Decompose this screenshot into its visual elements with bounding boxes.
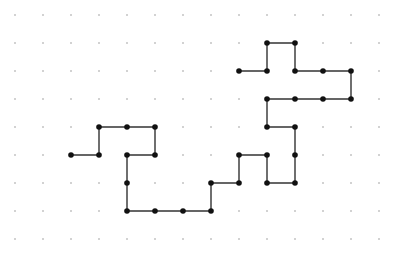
grid-dot [238, 98, 240, 100]
grid-dot [378, 238, 380, 240]
grid-dot [294, 210, 296, 212]
path-node [264, 40, 270, 46]
grid-dot [14, 182, 16, 184]
grid-dot [350, 14, 352, 16]
grid-dot [182, 238, 184, 240]
grid-dot [70, 210, 72, 212]
grid-dot [378, 210, 380, 212]
path-node [152, 208, 158, 214]
grid-dot [42, 42, 44, 44]
grid-dot [322, 238, 324, 240]
grid-dot [154, 14, 156, 16]
grid-dot [14, 14, 16, 16]
grid-dot [322, 210, 324, 212]
grid-dot [378, 14, 380, 16]
grid-dot [70, 14, 72, 16]
grid-dot [322, 154, 324, 156]
grid-dot [210, 70, 212, 72]
path-node [124, 124, 130, 130]
grid-dot [14, 210, 16, 212]
grid-dot [70, 238, 72, 240]
grid-dot [378, 154, 380, 156]
grid-dot [210, 98, 212, 100]
grid-dot [14, 98, 16, 100]
grid-dot [98, 14, 100, 16]
grid-dot [210, 126, 212, 128]
grid-dot [98, 70, 100, 72]
grid-dot [98, 42, 100, 44]
grid-dot [378, 98, 380, 100]
path-node [292, 96, 298, 102]
grid-dot [70, 70, 72, 72]
path-node [68, 152, 74, 158]
path-node [264, 68, 270, 74]
grid-dot [294, 14, 296, 16]
grid-dot [98, 182, 100, 184]
grid-dot [182, 14, 184, 16]
grid-dot [42, 238, 44, 240]
grid-dot [238, 238, 240, 240]
grid-dot [210, 154, 212, 156]
path-node [292, 40, 298, 46]
grid-dot [378, 42, 380, 44]
grid-dot [14, 126, 16, 128]
grid-dot [14, 238, 16, 240]
grid-dot [322, 126, 324, 128]
grid-dot [42, 210, 44, 212]
grid-dot [322, 14, 324, 16]
grid-dot [378, 70, 380, 72]
grid-dot [350, 210, 352, 212]
grid-dot [350, 182, 352, 184]
grid-dots [14, 14, 380, 240]
grid-dot [126, 238, 128, 240]
grid-dot [322, 182, 324, 184]
grid-dot [182, 154, 184, 156]
grid-dot [126, 14, 128, 16]
grid-dot [98, 210, 100, 212]
grid-dot [182, 42, 184, 44]
path-node [320, 68, 326, 74]
path-node [236, 180, 242, 186]
grid-dot [126, 42, 128, 44]
path-node [348, 68, 354, 74]
grid-dot [14, 42, 16, 44]
path-node [124, 152, 130, 158]
grid-dot [294, 238, 296, 240]
grid-dot [126, 70, 128, 72]
grid-dot [350, 126, 352, 128]
path-node [264, 96, 270, 102]
path-node [124, 208, 130, 214]
path-node [236, 152, 242, 158]
grid-dot [210, 238, 212, 240]
grid-dot [42, 126, 44, 128]
grid-dot [42, 98, 44, 100]
path-node [292, 68, 298, 74]
path-node [124, 180, 130, 186]
grid-dot [350, 42, 352, 44]
grid-dot [154, 98, 156, 100]
grid-dot [70, 182, 72, 184]
grid-dot [210, 42, 212, 44]
path-node [96, 152, 102, 158]
grid-dot [42, 70, 44, 72]
path-node [208, 208, 214, 214]
path-node [264, 180, 270, 186]
grid-dot [42, 154, 44, 156]
grid-dot [42, 182, 44, 184]
path-node [292, 180, 298, 186]
path-node [292, 124, 298, 130]
grid-dot [154, 42, 156, 44]
grid-dot [70, 42, 72, 44]
grid-dot [350, 154, 352, 156]
grid-dot [378, 182, 380, 184]
path-node [264, 124, 270, 130]
grid-dot [182, 182, 184, 184]
lattice-path-diagram [0, 0, 394, 256]
grid-dot [266, 210, 268, 212]
path-node [208, 180, 214, 186]
grid-dot [238, 126, 240, 128]
grid-dot [98, 98, 100, 100]
grid-dot [182, 70, 184, 72]
grid-dot [210, 14, 212, 16]
grid-dot [154, 70, 156, 72]
